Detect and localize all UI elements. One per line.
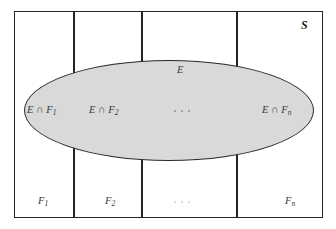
intersection-subscript-1: 1 <box>53 108 57 117</box>
ellipsis-dot <box>188 201 190 203</box>
intersection-label-e-cap-f2: E ∩ F2 <box>89 105 118 116</box>
sample-space-label: S <box>301 19 308 31</box>
intersection-subscript-2: 2 <box>115 108 119 117</box>
venn-partition-figure: S E E ∩ F1 E ∩ F2 E ∩ Fn F1 F2 Fn <box>0 0 336 229</box>
intersection-label-e-cap-f1: E ∩ F1 <box>27 105 56 116</box>
intersection-ellipsis-icon <box>174 110 190 112</box>
partition-subscript-1: 1 <box>44 199 48 208</box>
partition-subscript-n: n <box>291 199 295 208</box>
ellipsis-dot <box>174 201 176 203</box>
intersection-label-e-cap-fn: E ∩ Fn <box>262 105 291 116</box>
intersection-text-1: E ∩ F <box>27 104 53 115</box>
ellipsis-dot <box>181 110 183 112</box>
partition-label-f2: F2 <box>105 196 115 207</box>
event-e-label: E <box>177 65 183 76</box>
ellipsis-dot <box>188 110 190 112</box>
intersection-text-n: E ∩ F <box>262 104 288 115</box>
intersection-subscript-n: n <box>288 108 292 117</box>
partition-label-fn: Fn <box>285 196 295 207</box>
ellipsis-dot <box>181 201 183 203</box>
partition-subscript-2: 2 <box>111 199 115 208</box>
partition-label-f1: F1 <box>38 196 48 207</box>
intersection-text-2: E ∩ F <box>89 104 115 115</box>
ellipsis-dot <box>174 110 176 112</box>
partition-ellipsis-icon <box>174 201 190 203</box>
